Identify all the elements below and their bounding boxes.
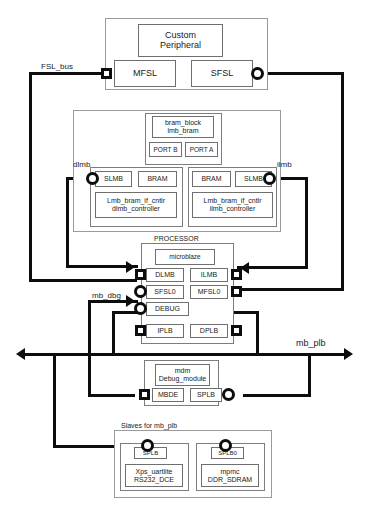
label-ilmb: ilmb: [277, 160, 292, 169]
wire-dplb-vertical: [256, 311, 259, 354]
processor-port-debug-label: DEBUG: [155, 305, 180, 313]
dlmb-port-bram[interactable]: BRAM: [138, 171, 177, 187]
mdm-core: mdm Debug_module: [155, 364, 210, 386]
slave-uartlite-core-line2: RS232_DCE: [134, 476, 174, 484]
ilmb-port-bram-label: BRAM: [201, 175, 221, 183]
dlmb-controller-core-line1: Lmb_bram_if_cntlr: [107, 197, 165, 205]
wire-mbplb-arrow-left: [16, 348, 25, 360]
port-mfsl[interactable]: MFSL: [114, 60, 176, 87]
wire-slaves-feed-vertical: [53, 353, 56, 448]
block-diagram-canvas: Custom Peripheral MFSL SFSL FSL_bus bram…: [0, 0, 368, 513]
processor-port-debug[interactable]: DEBUG: [146, 302, 189, 316]
bram-block-core-line1: bram_block: [165, 119, 201, 127]
connector-mdm-mbde-square[interactable]: [139, 389, 150, 400]
dlmb-port-slmb-label: SLMB: [104, 175, 123, 183]
processor-port-mfsl0[interactable]: MFSL0: [190, 285, 228, 299]
slaves-caption: Slaves for mb_plb: [121, 422, 177, 429]
connector-processor-iplb-square[interactable]: [135, 325, 146, 336]
wire-mdm-splb-vertical: [308, 353, 311, 397]
mdm-port-mbde-label: MBDE: [158, 391, 178, 399]
wire-mdm-splb-horizontal: [243, 394, 311, 397]
label-dlmb: dlmb: [73, 160, 90, 169]
connector-processor-ilmb-square[interactable]: [231, 269, 242, 280]
bram-block-core-line2: lmb_bram: [167, 127, 198, 135]
mdm-core-line1: mdm: [175, 367, 191, 375]
label-mb-dbg: mb_dbg: [92, 291, 121, 300]
ilmb-controller-core: Lmb_bram_if_cntlr ilmb_controller: [192, 192, 273, 218]
wire-fsl-top-horizontal: [29, 72, 107, 75]
wire-ilmb-vertical: [305, 177, 308, 269]
slave-mpmc-core-line1: mpmc: [220, 468, 239, 476]
wire-mbplb-main-bus: [24, 353, 346, 356]
connector-slave-mpmc-circle[interactable]: [219, 439, 232, 452]
connector-processor-sfsl0-circle[interactable]: [134, 285, 147, 298]
connector-mdm-splb-circle[interactable]: [222, 388, 235, 401]
wire-fsl-return-bottom: [235, 288, 344, 291]
connector-dlmb-circle[interactable]: [86, 172, 99, 185]
ilmb-port-slmb-label: SLMB: [244, 175, 263, 183]
wire-dplb-horizontal: [232, 311, 259, 314]
label-mb-plb: mb_plb: [296, 338, 326, 348]
processor-port-mfsl0-label: MFSL0: [198, 288, 221, 296]
processor-core-label: microblaze: [169, 253, 200, 260]
processor-port-sfsl0-label: SFSL0: [154, 288, 175, 296]
port-sfsl-label: SFSL: [211, 69, 234, 79]
port-mfsl-label: MFSL: [133, 69, 157, 79]
wire-fsl-bottom-horizontal: [29, 279, 137, 282]
processor-port-dlmb-label: DLMB: [155, 271, 174, 279]
slave-mpmc-core: mpmc DDR_SDRAM: [201, 464, 259, 487]
dlmb-port-bram-label: BRAM: [147, 175, 167, 183]
connector-ilmb-circle[interactable]: [263, 172, 276, 185]
mdm-core-line2: Debug_module: [159, 375, 206, 383]
label-fsl-bus: FSL_bus: [41, 62, 73, 71]
custom-peripheral-core-line2: Peripheral: [160, 41, 201, 51]
connector-sfsl-circle[interactable]: [251, 67, 264, 80]
ilmb-controller-core-line1: Lmb_bram_if_cntlr: [204, 197, 262, 205]
wire-mbdbg-vertical: [88, 300, 91, 396]
connector-processor-mfsl0-square[interactable]: [231, 286, 242, 297]
processor-port-ilmb-label: ILMB: [201, 271, 217, 279]
wire-fsl-return-vertical: [341, 72, 344, 291]
processor-core-microblaze: microblaze: [155, 249, 215, 265]
processor-port-sfsl0[interactable]: SFSL0: [146, 285, 184, 299]
processor-port-iplb[interactable]: IPLB: [146, 324, 184, 338]
dlmb-controller-core: Lmb_bram_if_cntlr dlmb_controller: [95, 192, 177, 218]
port-b[interactable]: PORT B: [149, 142, 182, 157]
wire-iplb-vertical: [112, 311, 115, 354]
slave-uartlite-core: Xps_uartlite RS232_DCE: [125, 464, 183, 487]
connector-mfsl-square[interactable]: [101, 68, 112, 79]
wire-mbdbg-bottom: [88, 394, 135, 397]
port-a[interactable]: PORT A: [185, 142, 218, 157]
port-sfsl[interactable]: SFSL: [191, 60, 253, 87]
wire-fsl-left-vertical: [29, 72, 32, 282]
bram-block-core: bram_block lmb_bram: [152, 116, 214, 138]
processor-port-ilmb[interactable]: ILMB: [190, 268, 228, 282]
connector-processor-dplb-square[interactable]: [231, 325, 242, 336]
wire-dlmb-vertical: [66, 177, 69, 268]
ilmb-controller-core-line2: ilmb_controller: [210, 205, 256, 213]
wire-dlmb-arrow-into-processor: [126, 261, 135, 273]
custom-peripheral-core: Custom Peripheral: [138, 24, 223, 57]
processor-port-dplb[interactable]: DPLB: [190, 324, 228, 338]
mdm-port-splb[interactable]: SPLB: [190, 388, 222, 402]
processor-port-dlmb[interactable]: DLMB: [146, 268, 184, 282]
mdm-port-splb-label: SPLB: [197, 391, 215, 399]
slave-mpmc-core-line2: DDR_SDRAM: [208, 476, 252, 484]
wire-mbplb-arrow-right: [344, 348, 353, 360]
port-a-label: PORT A: [190, 146, 214, 153]
connector-processor-dlmb-square[interactable]: [135, 269, 146, 280]
dlmb-controller-core-line2: dlmb_controller: [112, 205, 160, 213]
mdm-port-mbde[interactable]: MBDE: [152, 388, 184, 402]
connector-processor-debug-circle[interactable]: [134, 302, 147, 315]
processor-port-dplb-label: DPLB: [200, 327, 218, 335]
wire-fsl-return-top: [262, 72, 344, 75]
ilmb-port-bram[interactable]: BRAM: [192, 171, 231, 187]
processor-port-iplb-label: IPLB: [157, 327, 172, 335]
connector-slave-uartlite-circle[interactable]: [141, 439, 154, 452]
processor-caption: PROCESSOR: [154, 235, 199, 242]
slave-uartlite-core-line1: Xps_uartlite: [136, 468, 173, 476]
port-b-label: PORT B: [154, 146, 178, 153]
dlmb-port-slmb[interactable]: SLMB: [95, 171, 132, 187]
